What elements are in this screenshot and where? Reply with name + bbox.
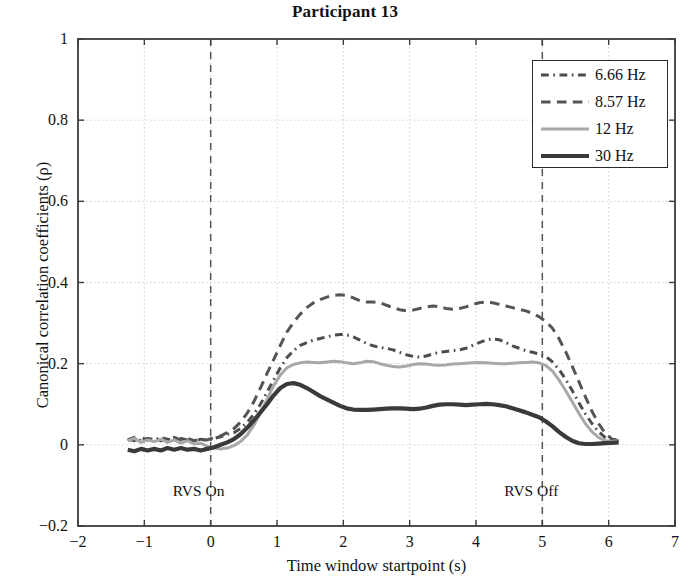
legend-item: 12 Hz bbox=[533, 115, 667, 142]
x-tick-label: 6 bbox=[589, 533, 629, 551]
x-tick-label: 5 bbox=[522, 533, 562, 551]
legend-label: 8.57 Hz bbox=[595, 93, 646, 111]
legend-item: 8.57 Hz bbox=[533, 88, 667, 115]
x-tick-label: 2 bbox=[323, 533, 363, 551]
y-tick-label: 0 bbox=[20, 436, 68, 454]
series-line-6-66-hz bbox=[128, 334, 619, 441]
legend-line-sample bbox=[539, 146, 591, 166]
x-tick-label: −2 bbox=[58, 533, 98, 551]
x-tick-label: 1 bbox=[257, 533, 297, 551]
y-tick-label: 0.8 bbox=[20, 111, 68, 129]
annotation-label: RVS On bbox=[173, 482, 225, 500]
chart-figure: Participant 13 Canonical correlation coe… bbox=[0, 0, 690, 587]
y-tick-label: 0.4 bbox=[20, 274, 68, 292]
legend-label: 12 Hz bbox=[595, 120, 634, 138]
x-tick-label: 4 bbox=[456, 533, 496, 551]
legend-label: 30 Hz bbox=[595, 147, 634, 165]
legend-line-sample bbox=[539, 119, 591, 139]
x-tick-label: 0 bbox=[191, 533, 231, 551]
series-line-12-hz bbox=[128, 361, 619, 449]
legend: 6.66 Hz8.57 Hz12 Hz30 Hz bbox=[532, 60, 668, 168]
legend-item: 30 Hz bbox=[533, 142, 667, 169]
y-tick-label: 0.2 bbox=[20, 355, 68, 373]
legend-line-sample bbox=[539, 92, 591, 112]
y-tick-label: 0.6 bbox=[20, 192, 68, 210]
legend-line-sample bbox=[539, 65, 591, 85]
legend-label: 6.66 Hz bbox=[595, 66, 646, 84]
y-tick-label: 1 bbox=[20, 30, 68, 48]
x-tick-label: −1 bbox=[124, 533, 164, 551]
legend-item: 6.66 Hz bbox=[533, 61, 667, 88]
x-tick-label: 7 bbox=[655, 533, 690, 551]
series-line-30-hz bbox=[128, 383, 619, 451]
annotation-label: RVS Off bbox=[504, 482, 558, 500]
x-tick-label: 3 bbox=[390, 533, 430, 551]
